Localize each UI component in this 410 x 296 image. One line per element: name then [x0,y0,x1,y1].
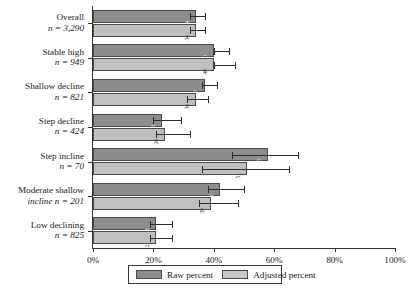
category-sample-size: n = 825 [31,230,84,240]
bar-value-label: 34 [185,104,191,109]
error-bar-cap-low [156,131,157,138]
chart-legend: Raw percent Adjusted percent [128,265,282,284]
category-label: Shallow declinen = 821 [25,81,84,102]
category-sample-size: n = 821 [25,92,84,102]
legend-label-adjusted: Adjusted percent [253,270,316,280]
x-tick [395,248,396,252]
bar-value-label: 21 [146,243,152,248]
category-label: Stable highn = 949 [42,47,84,68]
error-bar-line [208,189,244,190]
category-name: Low declining [31,220,84,230]
error-bar-cap-high [172,221,173,228]
x-tick-label: 100% [384,255,405,265]
x-tick [153,248,154,252]
category-label: Step declinen = 424 [39,116,84,137]
category-label: Moderate shallowincline n = 201 [18,185,84,206]
error-bar-line [202,85,217,86]
error-bar-cap-high [181,117,182,124]
error-bar-cap-high [208,96,209,103]
bar-adjusted-percent [93,24,196,37]
bar-adjusted-percent [93,58,214,71]
bar-raw-percent [93,10,196,23]
error-bar-cap-high [190,131,191,138]
category-sample-size: n = 949 [42,57,84,67]
error-bar-line [202,169,290,170]
x-tick-label: 60% [266,255,283,265]
bar-group: 2324 [93,114,395,141]
bar-group: 3434 [93,10,395,37]
bar-value-label: 39 [200,208,206,213]
category-name: Stable high [42,47,84,57]
legend-swatch-adjusted [222,270,248,279]
error-bar-cap-low [199,200,200,207]
error-bar-cap-low [190,13,191,20]
plot-area: 0%20%40%60%80%100% 343440403734232458514… [93,6,395,248]
error-bar-cap-low [187,96,188,103]
legend-label-raw: Raw percent [167,270,213,280]
error-bar-cap-high [244,186,245,193]
bar-raw-percent [93,79,205,92]
grouped-bar-chart: Overalln = 3,290Stable highn = 949Shallo… [0,0,410,296]
error-bar-cap-high [289,166,290,173]
x-tick [214,248,215,252]
category-sample-size: incline n = 201 [18,196,84,206]
category-label: Step inclinen = 70 [40,151,84,172]
category-label: Overalln = 3,290 [48,12,84,33]
error-bar-line [153,120,180,121]
legend-swatch-raw [136,270,162,279]
bar-group: 4040 [93,44,395,71]
category-name: Moderate shallow [18,185,84,195]
error-bar-cap-low [150,235,151,242]
bar-raw-percent [93,44,214,57]
error-bar-cap-high [238,200,239,207]
bar-value-label: 24 [155,139,161,144]
error-bar-cap-low [150,221,151,228]
error-bar-cap-high [229,48,230,55]
x-tick [335,248,336,252]
category-label: Low decliningn = 825 [31,220,84,241]
bar-group: 2121 [93,217,395,244]
bar-value-label: 34 [185,35,191,40]
bar-adjusted-percent [93,197,211,210]
error-bar-line [190,16,205,17]
category-sample-size: n = 70 [40,161,84,171]
bar-group: 5851 [93,148,395,175]
error-bar-cap-low [202,82,203,89]
bar-value-label: 40 [203,70,209,75]
error-bar-line [150,224,171,225]
bar-value-label: 51 [236,173,242,178]
error-bar-cap-high [298,152,299,159]
error-bar-line [187,99,208,100]
category-sample-size: n = 3,290 [48,23,84,33]
error-bar-line [232,155,298,156]
error-bar-line [190,30,205,31]
error-bar-cap-low [214,62,215,69]
category-sample-size: n = 424 [39,126,84,136]
category-name: Step decline [39,116,84,126]
error-bar-line [214,51,229,52]
error-bar-cap-high [217,82,218,89]
legend-item-adjusted: Adjusted percent [222,270,316,280]
category-name: Shallow decline [25,81,84,91]
error-bar-line [150,238,171,239]
category-name: Overall [48,12,84,22]
error-bar-cap-low [190,27,191,34]
error-bar-line [214,65,235,66]
bar-group: 4239 [93,183,395,210]
bar-group: 3734 [93,79,395,106]
bar-adjusted-percent [93,93,196,106]
bar-raw-percent [93,183,220,196]
error-bar-cap-low [208,186,209,193]
error-bar-cap-low [202,166,203,173]
x-tick [274,248,275,252]
category-name: Step incline [40,151,84,161]
x-tick-label: 20% [145,255,162,265]
x-tick-label: 0% [87,255,99,265]
error-bar-line [156,134,189,135]
error-bar-cap-high [205,13,206,20]
error-bar-cap-high [235,62,236,69]
error-bar-cap-high [205,27,206,34]
bar-value-label: 58 [258,159,264,164]
x-tick-label: 40% [205,255,222,265]
error-bar-line [199,203,238,204]
